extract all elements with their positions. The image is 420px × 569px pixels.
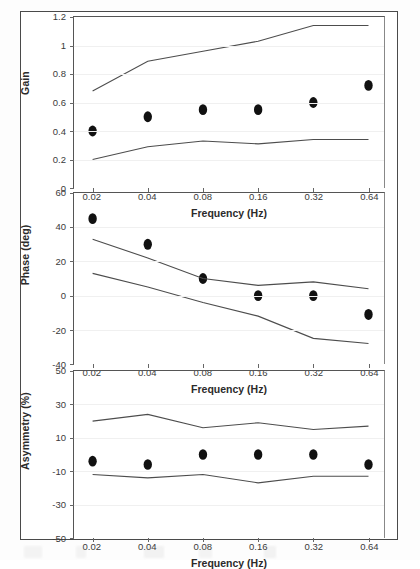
band-line-upper-bound	[93, 239, 369, 289]
data-point	[309, 449, 317, 460]
y-tick-mark	[70, 505, 74, 506]
grid-line	[74, 330, 384, 331]
y-tick-mark	[70, 74, 74, 75]
x-tick-label: 0.04	[138, 541, 157, 552]
data-point	[364, 309, 372, 320]
grid-line	[74, 74, 384, 75]
series-layer-phase	[74, 193, 384, 364]
grid-line	[74, 505, 384, 506]
data-point	[88, 456, 96, 467]
y-tick-mark	[70, 371, 74, 372]
x-tick-label: 0.16	[249, 541, 268, 552]
y-tick-mark	[70, 160, 74, 161]
y-tick-label: 40	[55, 221, 66, 232]
y-tick-mark	[70, 131, 74, 132]
data-point	[254, 104, 262, 115]
y-tick-mark	[70, 538, 74, 539]
data-point	[199, 449, 207, 460]
grid-line	[74, 160, 384, 161]
y-tick-label: 1	[61, 39, 66, 50]
plot-panel-gain: Gain 00.20.40.60.811.2 0.020.040.080.160…	[21, 16, 399, 188]
y-tick-mark	[70, 17, 74, 18]
data-point	[144, 239, 152, 250]
y-tick-mark	[70, 364, 74, 365]
y-tick-label: -50	[52, 533, 66, 544]
plot-panel-phase: Phase (deg) -40-200204060 0.020.040.080.…	[21, 192, 399, 364]
y-tick-mark	[70, 330, 74, 331]
y-tick-label: -10	[52, 465, 66, 476]
plot-asymmetry: Asymmetry (%) -50-30-10103050 0.020.040.…	[21, 370, 399, 538]
x-tick-label: 0.08	[194, 541, 213, 552]
y-tick-mark	[70, 193, 74, 194]
plot-area-asymmetry	[73, 370, 385, 538]
data-point	[144, 111, 152, 122]
data-point	[364, 459, 372, 470]
plot-gain: Gain 00.20.40.60.811.2 0.020.040.080.160…	[21, 16, 399, 188]
y-tick-mark	[70, 46, 74, 47]
grid-line	[74, 438, 384, 439]
data-point	[199, 104, 207, 115]
plot-phase: Phase (deg) -40-200204060 0.020.040.080.…	[21, 192, 399, 364]
y-tick-label: 60	[55, 187, 66, 198]
y-axis-label-gain: Gain	[19, 24, 33, 142]
grid-line	[74, 46, 384, 47]
y-tick-label: 0.2	[53, 154, 66, 165]
grid-line	[74, 471, 384, 472]
grid-line	[74, 103, 384, 104]
y-tick-mark	[70, 471, 74, 472]
y-tick-label: -30	[52, 499, 66, 510]
y-tick-mark	[70, 438, 74, 439]
plot-panels: Gain 00.20.40.60.811.2 0.020.040.080.160…	[21, 12, 397, 539]
grid-line	[74, 404, 384, 405]
y-tick-label: 30	[55, 398, 66, 409]
y-axis-label-asymmetry: Asymmetry (%)	[19, 372, 33, 490]
y-tick-label: -20	[52, 324, 66, 335]
grid-line	[74, 131, 384, 132]
y-tick-label: 0.8	[53, 68, 66, 79]
grid-line	[74, 227, 384, 228]
band-line-lower-bound	[93, 140, 369, 160]
y-axis-ticks-phase: -40-200204060	[35, 192, 69, 364]
series-layer-asymmetry	[74, 371, 384, 538]
y-tick-label: 20	[55, 255, 66, 266]
data-point	[88, 213, 96, 224]
grid-line	[74, 261, 384, 262]
y-tick-label: 1.2	[53, 11, 66, 22]
y-tick-label: 0	[61, 290, 66, 301]
x-axis-ticks-asymmetry: 0.020.040.080.160.320.64	[73, 541, 385, 555]
data-point	[144, 459, 152, 470]
y-axis-ticks-gain: 00.20.40.60.811.2	[35, 16, 69, 188]
band-line-upper-bound	[93, 414, 369, 429]
y-tick-mark	[70, 103, 74, 104]
x-tick-label: 0.64	[360, 541, 379, 552]
x-tick-label: 0.32	[305, 541, 324, 552]
y-tick-mark	[70, 261, 74, 262]
y-tick-label: 10	[55, 432, 66, 443]
band-line-upper-bound	[93, 26, 369, 92]
plot-area-gain	[73, 16, 385, 188]
y-tick-label: 0.6	[53, 97, 66, 108]
data-point	[254, 449, 262, 460]
grid-line	[74, 296, 384, 297]
data-point	[364, 80, 372, 91]
plot-panel-asymmetry: Asymmetry (%) -50-30-10103050 0.020.040.…	[21, 370, 399, 538]
y-axis-ticks-asymmetry: -50-30-10103050	[35, 370, 69, 538]
plot-area-phase	[73, 192, 385, 364]
figure-frame: Gain 00.20.40.60.811.2 0.020.040.080.160…	[20, 11, 398, 540]
y-axis-label-phase: Phase (deg)	[19, 196, 33, 314]
y-tick-mark	[70, 188, 74, 189]
x-tick-label: 0.02	[82, 541, 101, 552]
y-tick-mark	[70, 227, 74, 228]
x-axis-label-asymmetry: Frequency (Hz)	[73, 557, 385, 569]
band-line-lower-bound	[93, 475, 369, 483]
y-tick-mark	[70, 404, 74, 405]
y-tick-label: 50	[55, 365, 66, 376]
y-tick-mark	[70, 296, 74, 297]
y-tick-label: 0.4	[53, 125, 66, 136]
